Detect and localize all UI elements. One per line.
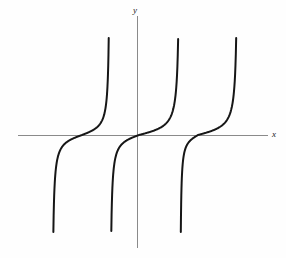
y-axis-label: y (133, 6, 137, 15)
tangent-function-figure: y x (0, 0, 286, 258)
plot-canvas (0, 0, 286, 258)
x-axis-label: x (272, 130, 276, 139)
axes-group (18, 16, 268, 248)
